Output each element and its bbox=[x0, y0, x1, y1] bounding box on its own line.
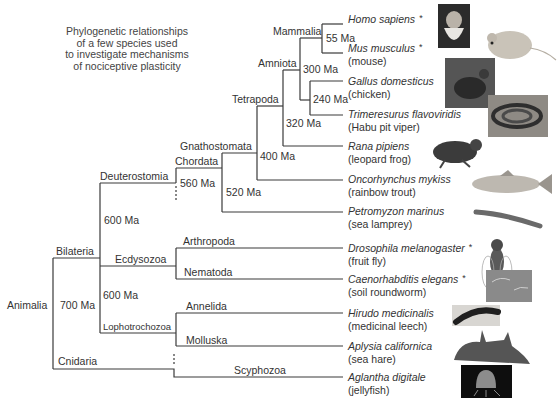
frog-image bbox=[433, 139, 482, 168]
age-chordata: 560 Ma bbox=[180, 177, 215, 189]
species-common-name: (sea hare) bbox=[348, 353, 396, 365]
species-mus-musculus: Mus musculus* (mouse) bbox=[348, 41, 423, 67]
human-portrait-image bbox=[438, 4, 470, 48]
star-marker: * bbox=[462, 273, 466, 283]
clade-cnidaria: Cnidaria bbox=[58, 355, 97, 367]
clade-animalia: Animalia bbox=[7, 299, 47, 311]
species-homo-sapiens: Homo sapiens* bbox=[348, 12, 423, 26]
age-protostomia: 600 Ma bbox=[103, 289, 138, 301]
species-scientific-name: Oncorhynchus mykiss bbox=[348, 173, 451, 185]
clade-arthropoda: Arthropoda bbox=[183, 235, 235, 247]
species-scientific-name: Trimeresurus flavoviridis bbox=[348, 108, 461, 120]
species-gallus-domesticus: Gallus domesticus (chicken) bbox=[348, 75, 434, 100]
age-sauropsida: 240 Ma bbox=[313, 93, 348, 105]
star-marker: * bbox=[419, 13, 423, 23]
clade-scyphozoa: Scyphozoa bbox=[234, 364, 286, 376]
clade-mammalia: Mammalia bbox=[273, 25, 321, 37]
species-common-name: (leopard frog) bbox=[348, 153, 411, 165]
species-trimeresurus-flavoviridis: Trimeresurus flavoviridis (Habu pit vipe… bbox=[348, 108, 461, 133]
species-scientific-name: Gallus domesticus bbox=[348, 75, 434, 87]
species-common-name: (rainbow trout) bbox=[348, 186, 416, 198]
species-rana-pipiens: Rana pipiens (leopard frog) bbox=[348, 140, 411, 165]
lamprey-image bbox=[476, 212, 540, 226]
species-aplysia-californica: Aplysia californica (sea hare) bbox=[348, 340, 432, 365]
species-scientific-name: Caenorhabditis elegans bbox=[348, 273, 458, 285]
species-scientific-name: Hirudo medicinalis bbox=[348, 307, 434, 319]
clade-annelida: Annelida bbox=[186, 300, 227, 312]
species-common-name: (mouse) bbox=[348, 55, 387, 67]
species-scientific-name: Rana pipiens bbox=[348, 140, 409, 152]
clade-tetrapoda: Tetrapoda bbox=[232, 93, 279, 105]
species-scientific-name: Drosophila melanogaster bbox=[348, 242, 465, 254]
age-gnathostomata: 520 Ma bbox=[226, 186, 261, 198]
star-marker: * bbox=[469, 242, 473, 252]
clade-deuterostomia: Deuterostomia bbox=[100, 170, 168, 182]
trout-image bbox=[472, 170, 552, 194]
clade-amniota: Amniota bbox=[258, 57, 297, 69]
age-animalia: 700 Ma bbox=[60, 299, 95, 311]
age-deuterostomia: 600 Ma bbox=[104, 214, 139, 226]
leech-image bbox=[452, 305, 500, 326]
caption-line: to investigate mechanisms bbox=[62, 49, 192, 61]
clade-bilateria: Bilateria bbox=[56, 245, 94, 257]
species-common-name: (soil roundworm) bbox=[348, 286, 426, 298]
clade-molluska: Molluska bbox=[186, 334, 227, 346]
species-petromyzon-marinus: Petromyzon marinus (sea lamprey) bbox=[348, 205, 444, 230]
clade-chordata: Chordata bbox=[175, 155, 218, 167]
species-common-name: (chicken) bbox=[348, 88, 391, 100]
species-common-name: (medicinal leech) bbox=[348, 320, 427, 332]
clade-ecdysozoa: Ecdysozoa bbox=[115, 253, 166, 265]
species-scientific-name: Aglantha digitale bbox=[348, 371, 426, 383]
species-oncorhynchus-mykiss: Oncorhynchus mykiss (rainbow trout) bbox=[348, 173, 451, 198]
species-caenorhabditis-elegans: Caenorhabditis elegans* (soil roundworm) bbox=[348, 272, 466, 298]
species-hirudo-medicinalis: Hirudo medicinalis (medicinal leech) bbox=[348, 307, 434, 332]
worm-image bbox=[486, 270, 532, 302]
species-common-name: (jellyfish) bbox=[348, 384, 389, 396]
caption-line: Phylogenetic relationships bbox=[62, 26, 192, 38]
age-mammalia: 300 Ma bbox=[303, 63, 338, 75]
star-marker: * bbox=[419, 42, 423, 52]
mouse-image bbox=[487, 31, 556, 60]
age-amniota: 320 Ma bbox=[286, 117, 321, 129]
chicken-image bbox=[445, 58, 495, 108]
sea-hare-image bbox=[454, 330, 530, 364]
figure-caption: Phylogenetic relationships of a few spec… bbox=[62, 26, 192, 72]
species-common-name: (fruit fly) bbox=[348, 255, 386, 267]
species-scientific-name: Petromyzon marinus bbox=[348, 205, 444, 217]
clade-lophotrochozoa: Lophotrochozoa bbox=[103, 321, 171, 333]
snake-image bbox=[488, 95, 548, 137]
species-aglantha-digitale: Aglantha digitale (jellyfish) bbox=[348, 371, 426, 396]
species-scientific-name: Homo sapiens bbox=[348, 13, 415, 25]
species-common-name: (sea lamprey) bbox=[348, 218, 412, 230]
species-common-name: (Habu pit viper) bbox=[348, 121, 420, 133]
branch-cnidaria bbox=[53, 369, 343, 377]
jellyfish-image bbox=[461, 365, 512, 398]
species-scientific-name: Mus musculus bbox=[348, 42, 415, 54]
caption-line: of nociceptive plasticity bbox=[62, 61, 192, 73]
age-tetrapoda: 400 Ma bbox=[260, 150, 295, 162]
species-drosophila-melanogaster: Drosophila melanogaster* (fruit fly) bbox=[348, 241, 472, 267]
clade-gnathostomata: Gnathostomata bbox=[180, 140, 252, 152]
species-scientific-name: Aplysia californica bbox=[348, 340, 432, 352]
clade-nematoda: Nematoda bbox=[184, 266, 232, 278]
